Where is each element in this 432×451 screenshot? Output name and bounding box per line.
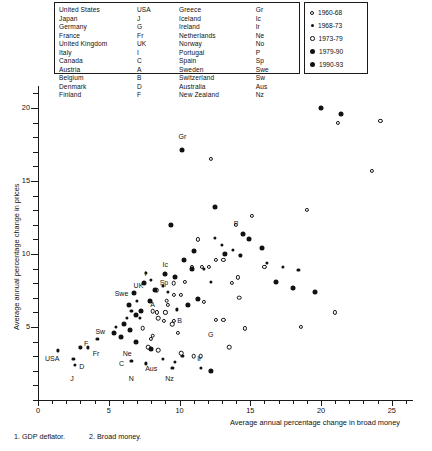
x-tick-label: 5 bbox=[107, 406, 111, 415]
country-abbr: No bbox=[256, 40, 295, 49]
legend-label: 1979-90 bbox=[319, 48, 343, 56]
country-abbr: Swe bbox=[256, 66, 295, 75]
data-point bbox=[122, 322, 127, 327]
legend-item-1973-79: 1973-79 bbox=[310, 32, 367, 45]
country-abbr: USA bbox=[137, 6, 177, 15]
country-name: United States bbox=[59, 6, 137, 15]
x-tick bbox=[264, 400, 265, 404]
x-tick bbox=[52, 400, 53, 404]
x-tick bbox=[279, 400, 280, 404]
x-tick bbox=[137, 400, 138, 404]
data-point bbox=[190, 266, 195, 271]
data-point bbox=[163, 272, 168, 277]
data-point bbox=[133, 313, 138, 318]
legend-item-1979-90: 1979-90 bbox=[310, 45, 367, 58]
country-name: Netherlands bbox=[179, 32, 256, 41]
country-abbr: C bbox=[137, 57, 177, 66]
y-tick bbox=[31, 108, 38, 109]
country-name: Ireland bbox=[179, 23, 256, 32]
x-tick bbox=[66, 400, 67, 404]
x-tick bbox=[349, 400, 350, 404]
data-point bbox=[259, 246, 264, 251]
data-point bbox=[227, 345, 232, 350]
data-point bbox=[112, 330, 117, 335]
point-label: Swe bbox=[115, 290, 129, 297]
country-abbr: UK bbox=[137, 40, 177, 49]
point-label: Fr bbox=[93, 350, 100, 357]
x-tick-label: 20 bbox=[317, 406, 325, 415]
legend-label: 1960-68 bbox=[318, 9, 342, 17]
period-legend: 1960-681968-731973-791979-901990-93 bbox=[304, 2, 368, 74]
country-name: Switzerland bbox=[179, 74, 256, 83]
y-tick-label: 20 bbox=[6, 103, 30, 112]
x-tick bbox=[208, 400, 209, 404]
x-axis-title: Average annual percentage change in broa… bbox=[230, 418, 400, 427]
country-name: Italy bbox=[59, 49, 137, 58]
country-name: Japan bbox=[59, 15, 137, 24]
legend-marker-icon bbox=[310, 11, 314, 15]
x-tick bbox=[236, 400, 237, 404]
legend-item-1990-93: 1990-93 bbox=[310, 58, 367, 71]
data-point bbox=[313, 289, 318, 294]
data-point bbox=[241, 231, 246, 236]
country-abbr: G bbox=[137, 23, 177, 32]
point-label: Ic bbox=[163, 261, 168, 268]
data-point bbox=[246, 237, 251, 242]
point-label: N bbox=[129, 375, 134, 382]
data-point bbox=[170, 322, 175, 327]
data-point bbox=[150, 333, 155, 338]
data-point bbox=[156, 316, 161, 321]
legend-label: 1968-73 bbox=[318, 22, 342, 30]
country-abbr: Ic bbox=[256, 15, 295, 24]
data-point bbox=[156, 348, 161, 353]
country-name: United Kingdom bbox=[59, 40, 137, 49]
data-point bbox=[338, 111, 343, 116]
country-abbr: B bbox=[137, 74, 177, 83]
country-abbreviation-key: United StatesJapanGermanyFranceUnited Ki… bbox=[54, 2, 300, 74]
legend-marker-icon bbox=[310, 49, 315, 54]
point-label: Gr bbox=[178, 132, 186, 139]
x-tick bbox=[165, 400, 166, 404]
legend-item-1968-73: 1968-73 bbox=[310, 19, 367, 32]
data-point bbox=[273, 279, 278, 284]
country-abbr: Ir bbox=[256, 23, 295, 32]
legend-marker-icon bbox=[310, 36, 315, 41]
country-abbr: Gr bbox=[256, 6, 295, 15]
country-name: Spain bbox=[179, 57, 256, 66]
country-name: Germany bbox=[59, 23, 137, 32]
point-label: UK bbox=[134, 281, 144, 288]
point-label: B bbox=[177, 316, 182, 323]
x-tick bbox=[194, 400, 195, 404]
y-tick bbox=[31, 254, 38, 255]
data-point bbox=[181, 257, 186, 262]
x-tick bbox=[80, 400, 81, 404]
data-point bbox=[290, 285, 295, 290]
x-tick-label: 15 bbox=[246, 406, 254, 415]
legend-label: 1973-79 bbox=[319, 35, 343, 43]
x-tick bbox=[293, 400, 294, 404]
point-label: Nz bbox=[165, 375, 174, 382]
data-point bbox=[139, 308, 144, 313]
country-name: France bbox=[59, 32, 137, 41]
data-point bbox=[212, 205, 217, 210]
point-label: I bbox=[145, 269, 147, 276]
x-tick bbox=[307, 400, 308, 404]
legend-label: 1990-93 bbox=[319, 61, 343, 69]
data-point bbox=[133, 339, 138, 344]
country-name: Greece bbox=[179, 6, 256, 15]
point-label: C bbox=[119, 360, 124, 367]
country-name: Iceland bbox=[179, 15, 256, 24]
data-point bbox=[149, 346, 154, 351]
data-point bbox=[191, 249, 196, 254]
country-abbr: A bbox=[137, 66, 177, 75]
footnote-2: 2. Broad money. bbox=[89, 432, 141, 441]
data-point bbox=[153, 288, 158, 293]
data-point bbox=[126, 303, 131, 308]
chart-page: United StatesJapanGermanyFranceUnited Ki… bbox=[0, 0, 432, 451]
point-label: A bbox=[150, 300, 155, 307]
country-name: Norway bbox=[179, 40, 256, 49]
data-point bbox=[132, 291, 137, 296]
x-tick bbox=[123, 400, 124, 404]
data-point bbox=[319, 105, 324, 110]
country-abbr: Sw bbox=[256, 74, 295, 83]
